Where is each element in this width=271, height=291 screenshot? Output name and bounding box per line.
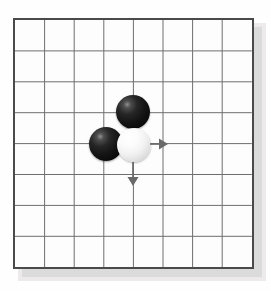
black-stone-upper[interactable]	[116, 95, 150, 129]
go-diagram-scene	[0, 0, 271, 291]
white-stone-center[interactable]	[117, 128, 151, 162]
